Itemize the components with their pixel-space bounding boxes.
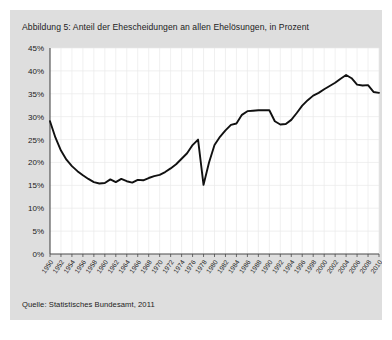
y-axis-tick-label: 10% (28, 204, 44, 213)
y-axis-tick-label: 25% (28, 136, 44, 145)
figure-page: Abbildung 5: Anteil der Ehescheidungen a… (0, 0, 392, 340)
line-chart: 0%5%10%15%20%25%30%35%40%45%195019521954… (10, 40, 382, 288)
figure-title: Abbildung 5: Anteil der Ehescheidungen a… (22, 22, 372, 32)
y-axis-tick-label: 20% (28, 158, 44, 167)
y-axis-tick-label: 5% (32, 227, 44, 236)
y-axis-tick-label: 35% (28, 90, 44, 99)
y-axis-tick-label: 45% (28, 44, 44, 53)
y-axis-tick-label: 0% (32, 250, 44, 259)
chart-plot-area: 0%5%10%15%20%25%30%35%40%45%195019521954… (10, 40, 382, 288)
y-axis-tick-label: 15% (28, 181, 44, 190)
y-axis-tick-label: 40% (28, 67, 44, 76)
x-axis-tick-label: 2010 (369, 258, 382, 274)
figure-source: Quelle: Statistisches Bundesamt, 2011 (22, 300, 155, 309)
figure-card: Abbildung 5: Anteil der Ehescheidungen a… (10, 10, 382, 320)
y-axis-tick-label: 30% (28, 113, 44, 122)
